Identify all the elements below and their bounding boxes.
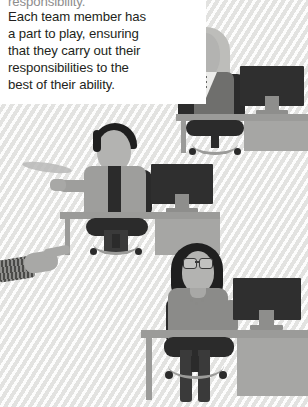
necklace-bead-1 — [190, 299, 193, 302]
desk-leg-bottom — [146, 338, 152, 400]
caster-top-right — [234, 148, 241, 155]
caption-line-1: Each team member has — [8, 10, 146, 23]
desk-pedestal-bottom — [237, 338, 308, 396]
caster-bottom-right — [219, 371, 227, 379]
glasses-left-lens — [183, 258, 197, 269]
hand-middle-worker — [50, 179, 66, 191]
caster-middle-right — [135, 248, 142, 255]
illustration-page: responsibility. Each team member has a p… — [0, 0, 308, 407]
tie-middle-worker — [108, 166, 121, 216]
desk-pedestal-top — [244, 121, 308, 151]
caption-line-4: responsibilities to the — [8, 61, 129, 74]
caption-line-2: a part to play, ensuring — [8, 27, 139, 40]
necklace-bead-3 — [201, 299, 204, 302]
caster-bottom-left — [165, 371, 173, 379]
caster-middle-left — [90, 248, 97, 255]
chair-base-top — [192, 132, 238, 155]
glasses-right-lens — [199, 258, 213, 269]
glasses-bridge — [195, 261, 199, 263]
caption-line-0: responsibility. — [8, 0, 85, 8]
caster-top-left — [189, 148, 196, 155]
caption-box: responsibility. Each team member has a p… — [0, 0, 206, 104]
hair-side-middle-worker — [93, 130, 101, 152]
collar-bottom-worker — [190, 288, 206, 298]
chair-base-middle — [93, 232, 139, 255]
necklace-bead-2 — [195, 302, 198, 305]
caption-line-3: that they carry out their — [8, 44, 140, 57]
caption-line-5: best of their ability. — [8, 78, 115, 91]
chair-base-bottom — [168, 352, 224, 379]
